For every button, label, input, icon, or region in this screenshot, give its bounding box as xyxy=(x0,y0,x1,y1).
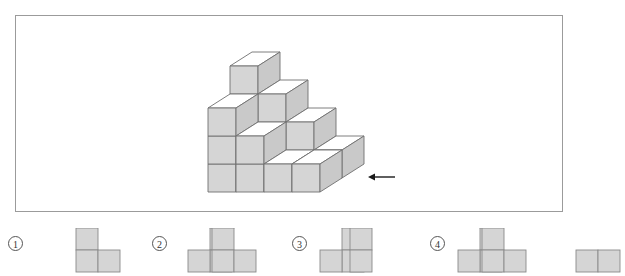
question-panel xyxy=(15,15,563,212)
option-4-figures xyxy=(450,228,625,276)
option-3-number: 3 xyxy=(292,236,307,251)
isometric-figure-svg xyxy=(16,16,564,213)
option-1-number: 1 xyxy=(8,236,23,251)
left-arrow-icon xyxy=(368,168,396,178)
option-4-svg xyxy=(450,228,625,276)
option-2-number: 2 xyxy=(152,236,167,251)
option-4-number: 4 xyxy=(430,236,445,251)
isometric-figure xyxy=(16,16,564,213)
answer-options: 1 2 3 4 xyxy=(0,228,577,276)
